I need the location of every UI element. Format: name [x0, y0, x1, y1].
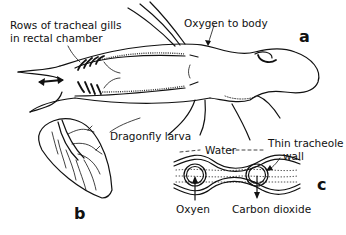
tracheal-gill-leaf	[39, 119, 112, 198]
dragonfly-larva-label: Dragonfly larva	[110, 131, 191, 142]
tracheal-gills-lower	[78, 82, 101, 94]
tracheole-cross-section	[174, 150, 300, 200]
tracheal-gills-upper	[78, 56, 104, 70]
panel-b-letter: b	[74, 206, 85, 222]
oxygen-label: Oxyen	[176, 204, 210, 215]
water-label: Water	[205, 145, 236, 156]
gills-label-line2: in rectal chamber	[10, 33, 103, 44]
carbon-dioxide-label: Carbon dioxide	[232, 204, 311, 215]
panel-a-letter: a	[299, 29, 310, 45]
dragonfly-respiration-diagram: Rows of tracheal gills in rectal chamber…	[0, 0, 346, 235]
panel-c-letter: c	[317, 177, 326, 193]
water-flow-arrow	[38, 76, 64, 86]
tracheole-wall-label-line2: wall	[283, 151, 304, 162]
oxygen-to-body-label: Oxygen to body	[184, 18, 268, 29]
gills-label-line1: Rows of tracheal gills	[10, 20, 121, 31]
tracheole-wall-label-line1: Thin tracheole	[268, 138, 344, 149]
